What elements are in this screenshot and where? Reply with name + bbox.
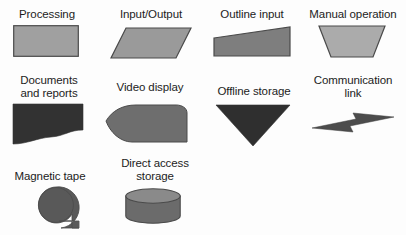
symbol-label-communication-link: Communication link (303, 74, 403, 99)
symbol-label-processing: Processing (8, 8, 86, 21)
flowchart-symbol-legend: Processing Input/Output Outline input Ma… (0, 0, 406, 235)
direct-access-storage-cylinder-icon (125, 188, 181, 224)
symbol-label-video-display: Video display (105, 81, 195, 94)
magnetic-tape-icon (38, 187, 82, 229)
symbol-label-documents-and-reports: Documents and reports (8, 74, 90, 99)
communication-link-bolt-icon (312, 112, 394, 134)
manual-operation-trapezoid-icon (318, 25, 386, 58)
symbol-label-manual-operation: Manual operation (303, 8, 403, 21)
input-output-parallelogram-icon (110, 27, 192, 59)
symbol-label-direct-access-storage: Direct access storage (108, 157, 202, 182)
offline-storage-triangle-icon (216, 105, 290, 146)
processing-rectangle-icon (13, 25, 79, 57)
symbol-label-offline-storage: Offline storage (208, 85, 300, 98)
outline-input-shape-icon (213, 26, 291, 57)
symbol-label-input-output: Input/Output (107, 8, 195, 21)
symbol-label-outline-input: Outline input (209, 8, 295, 21)
symbol-label-magnetic-tape: Magnetic tape (4, 170, 96, 183)
video-display-icon (106, 105, 188, 143)
documents-and-reports-icon (13, 104, 83, 144)
